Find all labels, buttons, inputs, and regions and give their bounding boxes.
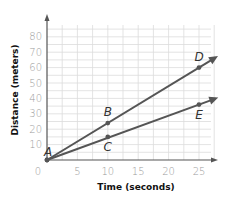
x-tick-label: 25 xyxy=(193,166,206,177)
grid-lines xyxy=(47,25,214,160)
point-label-d: D xyxy=(194,50,203,64)
y-axis-title: Distance (meters) xyxy=(10,44,20,135)
x-tick-label: 10 xyxy=(101,166,114,177)
y-axis-arrow-icon xyxy=(45,14,50,21)
distance-time-chart: 05101520251020304050607080 ABDCE Time (s… xyxy=(0,0,230,202)
y-tick-label: 60 xyxy=(29,62,42,73)
y-tick-label: 70 xyxy=(29,47,42,58)
point-label-a: A xyxy=(43,145,52,159)
y-tick-label: 50 xyxy=(29,78,42,89)
data-point xyxy=(197,65,202,70)
point-label-b: B xyxy=(104,105,112,119)
y-tick-label: 40 xyxy=(29,93,42,104)
y-tick-label: 20 xyxy=(29,124,42,135)
x-tick-label: 20 xyxy=(162,166,175,177)
point-label-c: C xyxy=(104,140,113,154)
line-arrow-icon xyxy=(208,97,218,105)
y-tick-label: 30 xyxy=(29,108,42,119)
x-axis-title: Time (seconds) xyxy=(97,182,174,192)
axes xyxy=(45,14,219,163)
x-tick-label: 0 xyxy=(35,166,41,177)
data-point xyxy=(105,135,110,140)
y-tick-label: 10 xyxy=(29,139,42,150)
data-point xyxy=(197,102,202,107)
x-tick-label: 5 xyxy=(74,166,80,177)
data-point xyxy=(105,121,110,126)
data-series xyxy=(45,56,219,162)
point-label-e: E xyxy=(195,108,203,122)
y-tick-label: 80 xyxy=(29,31,42,42)
x-tick-label: 15 xyxy=(132,166,145,177)
